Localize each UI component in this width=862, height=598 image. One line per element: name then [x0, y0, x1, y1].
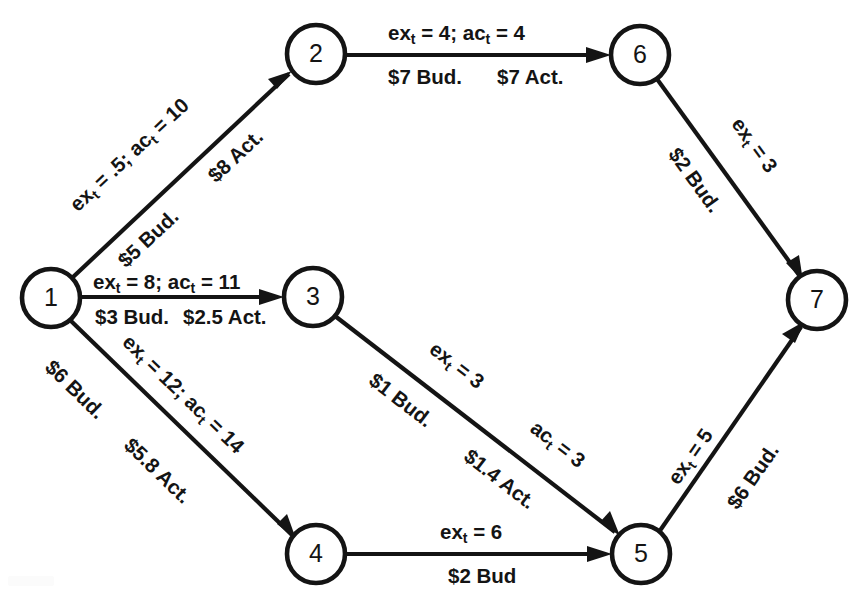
- edge-2-to-6-actual-label: $7 Act.: [497, 67, 563, 88]
- edge-1-to-2-arrowhead: [268, 71, 292, 89]
- subscript-t: t: [411, 31, 416, 47]
- node-1-label: 1: [44, 283, 58, 311]
- edge-4-to-5-arrowhead: [587, 546, 612, 562]
- node-7-label: 7: [810, 285, 824, 313]
- node-3-label: 3: [306, 282, 320, 310]
- edge-2-to-6-time-mid: = 4; ac: [415, 21, 485, 44]
- edge-1-to-3-arrowhead: [259, 289, 284, 305]
- node-6[interactable]: 6: [611, 26, 669, 84]
- node-6-label: 6: [633, 40, 647, 68]
- edge-2-to-6-budget-label: $7 Bud.: [388, 67, 462, 88]
- node-2[interactable]: 2: [287, 25, 345, 83]
- edge-2-to-6-time-post: = 4: [490, 21, 525, 44]
- edge-1-to-4: [70, 320, 296, 539]
- subscript-t: t: [463, 530, 468, 546]
- edge-6-to-7: [657, 79, 803, 281]
- node-4-label: 4: [309, 539, 323, 567]
- edge-1-to-3-time-mid: = 8; ac: [120, 270, 190, 293]
- subscript-t: t: [191, 280, 196, 296]
- edge-2-to-6: [345, 47, 611, 63]
- node-1[interactable]: 1: [22, 269, 80, 327]
- edge-1-to-3-actual-label: $2.5 Act.: [183, 307, 267, 328]
- scan-artifact: [8, 576, 54, 586]
- node-5[interactable]: 5: [612, 525, 670, 583]
- edge-1-to-3-time-post: = 11: [195, 270, 240, 293]
- node-2-label: 2: [309, 39, 323, 67]
- edge-1-to-3-time-label: ext = 8; act = 11: [93, 272, 240, 293]
- network-graph-canvas: 1 2 3 4 5 6 7: [0, 0, 862, 598]
- edge-4-to-5-budget-label: $2 Bud: [448, 566, 516, 587]
- edge-3-to-5-line: [335, 316, 615, 532]
- network-diagram: 1 2 3 4 5 6 7 ext = .5; act = 10: [0, 0, 862, 598]
- edge-1-to-3-budget-label: $3 Bud.: [95, 307, 169, 328]
- edge-3-to-5: [335, 316, 620, 536]
- subscript-t: t: [116, 280, 121, 296]
- edge-2-to-6-time-pre: ex: [388, 21, 411, 44]
- edge-3-to-5-arrowhead: [600, 511, 620, 536]
- edge-2-to-6-arrowhead: [586, 47, 611, 63]
- edge-4-to-5: [345, 546, 612, 562]
- node-4[interactable]: 4: [287, 525, 345, 583]
- subscript-t: t: [486, 31, 491, 47]
- edge-1-to-3-time-pre: ex: [93, 270, 116, 293]
- edge-4-to-5-time-label: ext = 6: [440, 522, 502, 543]
- node-7[interactable]: 7: [788, 271, 846, 329]
- edge-2-to-6-time-label: ext = 4; act = 4: [388, 23, 525, 44]
- edge-4-to-5-time-pre: ex: [440, 520, 463, 543]
- node-3[interactable]: 3: [284, 268, 342, 326]
- edge-4-to-5-time-post: = 6: [467, 520, 502, 543]
- node-5-label: 5: [634, 539, 648, 567]
